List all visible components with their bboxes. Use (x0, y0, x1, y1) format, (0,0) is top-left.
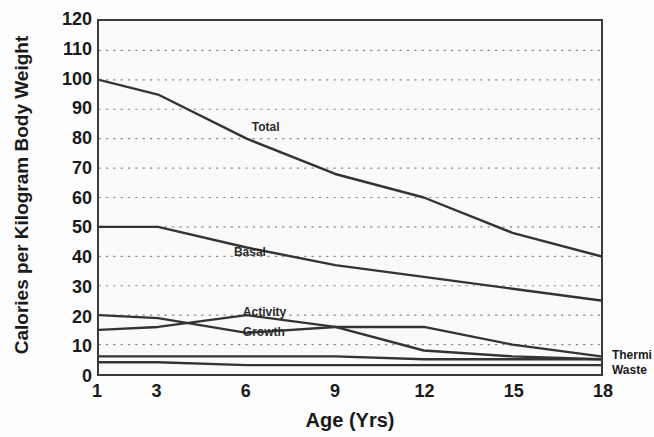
y-tick-70: 70 (46, 159, 92, 177)
y-tick-60: 60 (46, 189, 92, 207)
series-line-waste (99, 362, 601, 365)
y-tick-120: 120 (46, 10, 92, 28)
y-axis-tick-labels: 1201101009080706050403020100 (44, 0, 92, 437)
y-tick-40: 40 (46, 248, 92, 266)
x-tick-1: 1 (92, 382, 102, 400)
plot-area (97, 19, 603, 376)
y-tick-10: 10 (46, 337, 92, 355)
y-axis-title: Calories per Kilogram Body Weight (11, 36, 33, 354)
x-axis-tick-labels: 1369121518 (0, 382, 654, 406)
series-label-total: Total (252, 120, 280, 134)
chart-figure: Calories per Kilogram Body Weight 120110… (0, 0, 654, 437)
y-tick-20: 20 (46, 308, 92, 326)
gridlines (99, 50, 601, 344)
y-tick-80: 80 (46, 129, 92, 147)
series-label-activity: Activity (243, 305, 286, 319)
y-tick-100: 100 (46, 70, 92, 88)
x-tick-6: 6 (241, 382, 251, 400)
x-tick-3: 3 (152, 382, 162, 400)
x-axis-title: Age (Yrs) (97, 409, 603, 432)
y-tick-50: 50 (46, 218, 92, 236)
x-tick-18: 18 (593, 382, 613, 400)
series-label-waste: Waste (612, 363, 647, 377)
y-axis-title-container: Calories per Kilogram Body Weight (0, 0, 44, 390)
series-label-growth: Growth (243, 325, 285, 339)
series-label-thermic: Thermi (612, 348, 652, 362)
y-tick-110: 110 (46, 40, 92, 58)
x-tick-12: 12 (414, 382, 434, 400)
y-tick-90: 90 (46, 99, 92, 117)
series-lines (99, 80, 601, 365)
x-tick-15: 15 (504, 382, 524, 400)
y-tick-30: 30 (46, 278, 92, 296)
series-line-basal (99, 227, 601, 301)
series-line-activity (99, 315, 601, 356)
x-tick-9: 9 (330, 382, 340, 400)
series-label-basal: Basal (234, 245, 266, 259)
plot-svg (99, 21, 601, 374)
